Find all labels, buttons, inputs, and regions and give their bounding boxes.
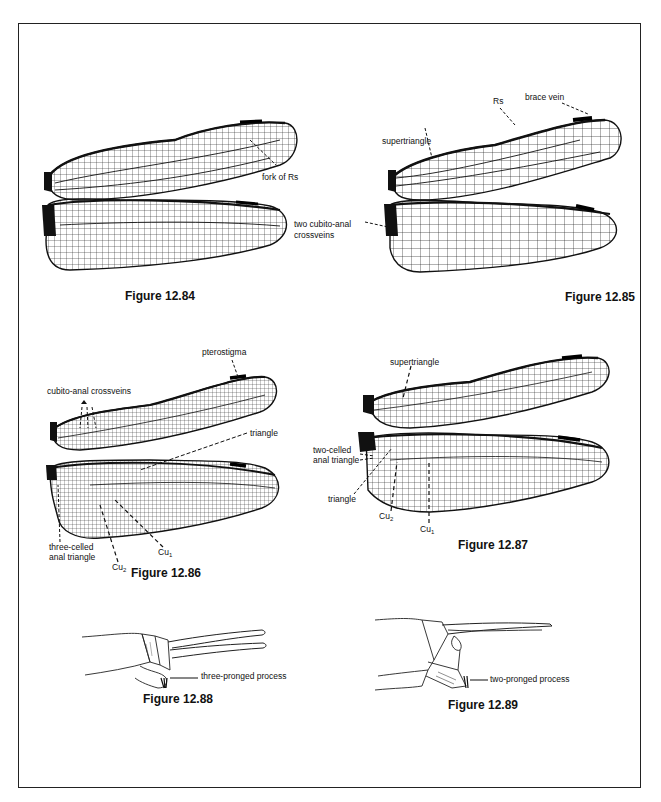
- figure-caption: Figure 12.87: [458, 538, 528, 552]
- figure-caption: Figure 12.84: [125, 289, 195, 303]
- label-cu1: Cu1: [158, 548, 172, 559]
- figure-12-85: brace vein Rs supertriangle two cubito-a…: [330, 0, 661, 290]
- wing-pair-illustration: [0, 0, 330, 290]
- figure-12-86: pterostigma cubito-anal crossveins trian…: [0, 320, 330, 580]
- figure-caption: Figure 12.86: [131, 566, 201, 580]
- label-cubito-anal-crossveins: cubito-anal crossveins: [47, 387, 131, 397]
- wing-pair-illustration: [330, 0, 661, 290]
- figure-caption: Figure 12.85: [565, 290, 635, 304]
- label-brace-vein: brace vein: [525, 93, 564, 103]
- label-rs: Rs: [493, 97, 503, 107]
- figure-caption: Figure 12.89: [448, 698, 518, 712]
- label-crossveins: crossveins: [294, 231, 334, 241]
- label-two-pronged-process: two-pronged process: [490, 675, 569, 685]
- label-triangle: triangle: [250, 429, 278, 439]
- label-supertriangle: supertriangle: [390, 358, 439, 368]
- label-supertriangle: supertriangle: [382, 137, 431, 147]
- label-cu2: Cu2: [379, 512, 393, 523]
- figure-12-88: three-pronged process Figure 12.88: [0, 600, 330, 720]
- label-cu1: Cu1: [420, 525, 434, 536]
- figure-caption: Figure 12.88: [143, 692, 213, 706]
- label-fork-of-rs: fork of Rs: [262, 173, 298, 183]
- figure-12-87: supertriangle two-celled anal triangle t…: [330, 320, 661, 580]
- figure-12-84: fork of Rs Figure 12.84: [0, 0, 330, 290]
- label-anal-triangle: anal triangle: [49, 553, 95, 563]
- label-three-pronged-process: three-pronged process: [201, 672, 287, 682]
- label-two-cubito-anal: two cubito-anal: [294, 220, 351, 230]
- wing-pair-illustration: [0, 320, 330, 580]
- label-triangle: triangle: [328, 495, 356, 505]
- label-anal-triangle: anal triangle: [313, 456, 359, 466]
- label-pterostigma: pterostigma: [202, 348, 246, 358]
- figure-12-89: two-pronged process Figure 12.89: [330, 600, 661, 720]
- label-cu2: Cu2: [112, 563, 126, 574]
